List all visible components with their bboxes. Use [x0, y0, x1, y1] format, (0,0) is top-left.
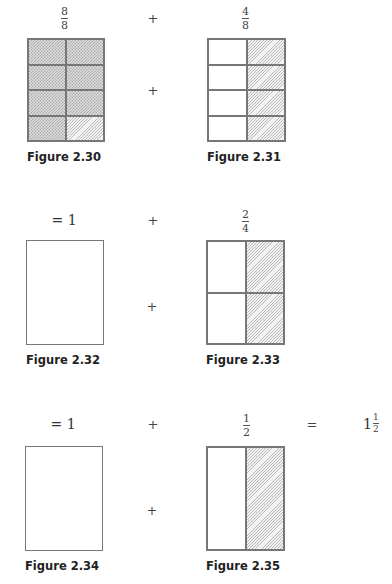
cell-empty — [208, 39, 247, 65]
cell-diagonal — [247, 116, 285, 141]
caption-figure-2-34: Figure 2.34 — [25, 559, 99, 573]
numerator: 8 — [61, 6, 68, 17]
caption-figure-2-33: Figure 2.33 — [206, 353, 280, 367]
cell-empty — [208, 116, 247, 141]
cell-crosshatched — [28, 116, 66, 141]
denominator: 2 — [243, 427, 250, 438]
result-fraction: 1 2 — [373, 413, 379, 434]
plus-operator-mid: + — [147, 299, 158, 314]
cell-empty — [207, 447, 246, 550]
figure-2-34-diagram — [25, 446, 103, 551]
caption-figure-2-32: Figure 2.32 — [26, 353, 100, 367]
result-mixed-number: 1 1 2 — [363, 413, 379, 434]
figure-2-30-diagram — [27, 38, 105, 142]
cell-empty — [207, 293, 246, 344]
plus-operator-mid: + — [147, 503, 158, 518]
figure-2-32-diagram — [26, 240, 104, 345]
cell-diagonal — [247, 90, 285, 116]
cell-crosshatched — [66, 90, 104, 116]
fraction-1-2: 1 2 — [243, 413, 250, 438]
cell-crosshatched — [28, 90, 66, 116]
caption-figure-2-30: Figure 2.30 — [27, 150, 101, 164]
plus-operator-mid: + — [148, 83, 159, 98]
caption-figure-2-35: Figure 2.35 — [206, 559, 280, 573]
fraction-2-4: 2 4 — [242, 209, 249, 234]
cell-empty — [208, 65, 247, 90]
equals-one-label: = 1 — [50, 416, 75, 432]
figure-2-33-diagram — [206, 240, 285, 345]
fraction-8-8: 8 8 — [61, 6, 68, 31]
cell-crosshatched — [28, 65, 66, 90]
denominator: 8 — [242, 20, 249, 31]
caption-figure-2-31: Figure 2.31 — [207, 150, 281, 164]
cell-empty — [208, 90, 247, 116]
denominator: 8 — [61, 20, 68, 31]
cell-crosshatched — [28, 39, 66, 65]
cell-diagonal — [247, 39, 285, 65]
cell-diagonal — [246, 447, 284, 550]
cell-empty — [207, 241, 246, 293]
denominator: 4 — [242, 223, 249, 234]
plus-operator-top: + — [148, 417, 159, 432]
cell-diagonal — [246, 241, 284, 293]
equals-operator: = — [307, 417, 318, 432]
cell-crosshatched — [66, 39, 104, 65]
equals-one-label: = 1 — [51, 212, 76, 228]
figure-2-35-diagram — [206, 446, 285, 551]
cell-diagonal — [66, 116, 104, 141]
numerator: 1 — [373, 413, 379, 422]
numerator: 4 — [242, 6, 249, 17]
figure-2-31-diagram — [207, 38, 286, 142]
plus-operator-top: + — [148, 213, 159, 228]
fraction-4-8: 4 8 — [242, 6, 249, 31]
cell-diagonal — [246, 293, 284, 344]
whole-number: 1 — [363, 416, 372, 432]
cell-diagonal — [247, 65, 285, 90]
numerator: 1 — [243, 413, 250, 424]
plus-operator-top: + — [148, 11, 159, 26]
numerator: 2 — [242, 209, 249, 220]
cell-crosshatched — [66, 65, 104, 90]
denominator: 2 — [373, 425, 379, 434]
